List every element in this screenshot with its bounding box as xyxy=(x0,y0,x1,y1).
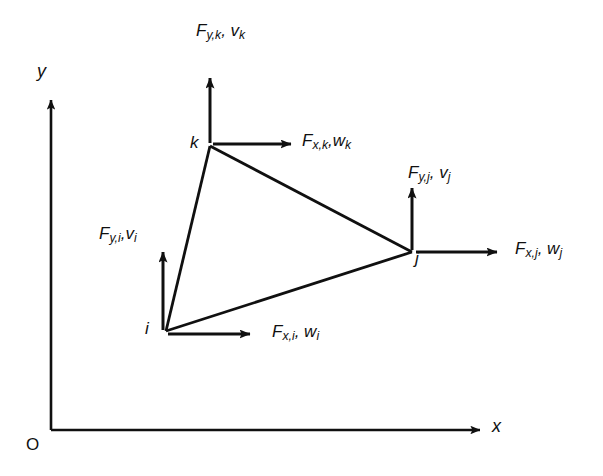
label-separator: , xyxy=(430,163,439,182)
displacement-symbol-vi: v xyxy=(125,224,134,243)
force-symbol-fyi: F xyxy=(99,224,109,243)
displacement-subscript-vi: i xyxy=(134,231,137,245)
force-subscript-fxk: x,k xyxy=(312,138,328,152)
force-label-i-horizontal: Fx,i, wi xyxy=(272,323,319,343)
label-separator: , xyxy=(221,21,230,40)
diagram-vector-layer xyxy=(0,0,603,476)
displacement-symbol-vk: v xyxy=(231,21,240,40)
force-label-k-horizontal: Fx,k,wk xyxy=(302,132,351,152)
figure-canvas: y x O k i j Fy,k, vk Fx,k,wk Fy,j, vj Fx… xyxy=(0,0,603,476)
force-symbol-fxk: F xyxy=(302,131,312,150)
displacement-symbol-wj: w xyxy=(547,239,559,258)
force-label-i-vertical: Fy,i,vi xyxy=(99,225,137,245)
force-symbol-fyj: F xyxy=(408,163,418,182)
displacement-subscript-wj: j xyxy=(559,246,562,260)
force-symbol-fxi: F xyxy=(272,322,282,341)
force-subscript-fxi: x,i xyxy=(282,329,294,343)
force-label-j-horizontal: Fx,j, wj xyxy=(515,240,562,260)
label-separator: , xyxy=(538,239,547,258)
force-symbol-fxj: F xyxy=(515,239,525,258)
nodal-arrows xyxy=(163,78,497,334)
element-edge-j-i xyxy=(166,252,412,331)
node-label-j: j xyxy=(415,250,419,267)
node-label-k: k xyxy=(190,134,199,151)
force-subscript-fyj: y,j xyxy=(418,170,429,184)
displacement-symbol-vj: v xyxy=(439,163,448,182)
displacement-subscript-wk: k xyxy=(345,138,351,152)
node-label-i: i xyxy=(145,320,149,337)
origin-label: O xyxy=(26,436,39,453)
displacement-subscript-wi: i xyxy=(316,329,319,343)
displacement-symbol-wk: w xyxy=(333,131,345,150)
y-axis-label: y xyxy=(37,62,46,80)
displacement-symbol-wi: w xyxy=(304,322,316,341)
element-edge-i-k xyxy=(166,146,210,331)
force-symbol-fyk: F xyxy=(196,21,206,40)
triangular-element xyxy=(166,146,412,331)
displacement-subscript-vk: k xyxy=(239,28,245,42)
force-subscript-fxj: x,j xyxy=(525,246,537,260)
force-subscript-fyi: y,i xyxy=(109,231,120,245)
label-separator: , xyxy=(295,322,304,341)
force-label-j-vertical: Fy,j, vj xyxy=(408,164,450,184)
force-subscript-fyk: y,k xyxy=(206,28,221,42)
force-label-k-vertical: Fy,k, vk xyxy=(196,22,245,42)
displacement-subscript-vj: j xyxy=(448,170,451,184)
x-axis-label: x xyxy=(492,417,501,435)
element-edge-k-j xyxy=(210,146,412,252)
